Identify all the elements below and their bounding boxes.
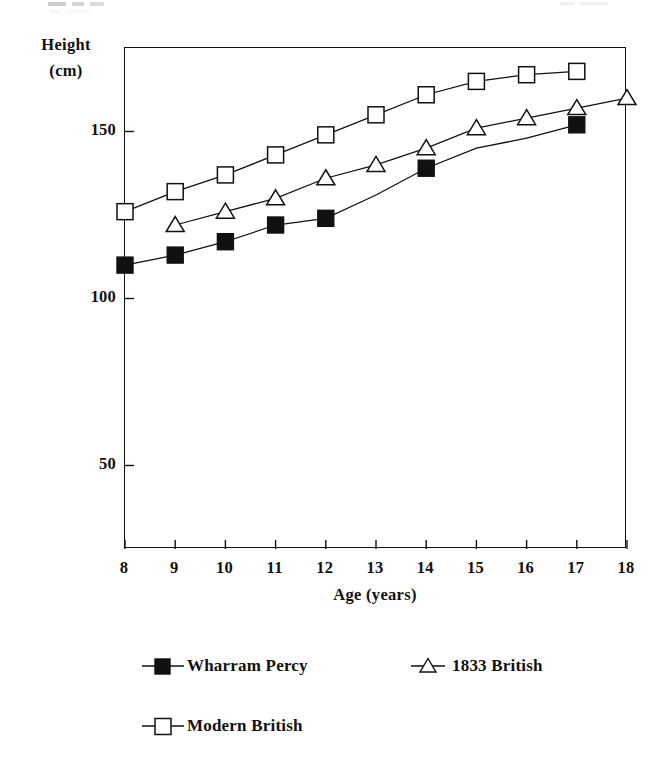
series-1833-british [166, 90, 636, 232]
data-point-modern-british-age-13 [368, 107, 384, 123]
data-point-wharram-percy-age-12 [318, 210, 334, 226]
data-point-wharram-percy-age-17 [569, 117, 585, 133]
x-tick-label-14: 14 [405, 558, 445, 578]
data-point-modern-british-age-10 [217, 167, 233, 183]
legend-marker-filled-square [140, 655, 186, 677]
data-point-wharram-percy-age-10 [217, 234, 233, 250]
data-point-modern-british-age-16 [519, 67, 535, 83]
x-tick-label-16: 16 [506, 558, 546, 578]
series-line [175, 98, 627, 225]
data-point-modern-british-age-12 [318, 127, 334, 143]
x-tick-label-9: 9 [154, 558, 194, 578]
x-tick-label-15: 15 [455, 558, 495, 578]
y-axis-title-main: Height [41, 35, 90, 54]
y-tick-label-100: 100 [60, 287, 116, 307]
x-tick-label-12: 12 [305, 558, 345, 578]
data-point-1833-british-age-18 [618, 90, 636, 105]
data-point-wharram-percy-age-9 [167, 247, 183, 263]
data-point-wharram-percy-age-8 [117, 257, 133, 273]
y-tick-label-150: 150 [60, 120, 116, 140]
data-point-modern-british-age-17 [569, 63, 585, 79]
legend-label-wharram-percy: Wharram Percy [186, 656, 308, 676]
figure-chart-height-vs-age: Height (cm) 50100150 8910111213141516171… [0, 0, 669, 765]
axis-ticks [125, 132, 627, 550]
data-point-1833-british-age-12 [317, 170, 335, 185]
series-wharram-percy [117, 117, 585, 273]
legend-marker-open-square [140, 715, 186, 737]
data-point-1833-british-age-13 [367, 156, 385, 171]
scan-artifact-top-left-2 [50, 10, 102, 13]
plot-area [124, 47, 626, 548]
data-series-layer [117, 63, 636, 273]
legend-item-modern-british: Modern British [140, 715, 303, 737]
legend-item-wharram-percy: Wharram Percy [140, 655, 308, 677]
series-modern-british [117, 63, 585, 219]
chart-legend: Wharram Percy 1833 British Modern Britis… [0, 655, 669, 755]
data-point-modern-british-age-14 [418, 87, 434, 103]
x-tick-label-10: 10 [204, 558, 244, 578]
y-axis-title: Height (cm) [18, 32, 114, 84]
series-line [125, 125, 577, 265]
data-point-modern-british-age-15 [468, 73, 484, 89]
x-tick-label-11: 11 [255, 558, 295, 578]
legend-item-1833-british: 1833 British [405, 655, 543, 677]
x-tick-label-17: 17 [556, 558, 596, 578]
data-point-wharram-percy-age-14 [418, 160, 434, 176]
data-point-1833-british-age-14 [417, 140, 435, 155]
data-point-modern-british-age-9 [167, 184, 183, 200]
legend-marker-open-triangle [405, 655, 451, 677]
data-point-modern-british-age-8 [117, 204, 133, 220]
data-point-wharram-percy-age-11 [268, 217, 284, 233]
scan-artifact-top-left [48, 2, 118, 6]
legend-label-1833-british: 1833 British [451, 656, 543, 676]
plot-canvas [125, 48, 627, 549]
x-tick-label-13: 13 [355, 558, 395, 578]
scan-artifact-top-right [560, 2, 616, 5]
data-point-1833-british-age-11 [267, 190, 285, 205]
data-point-1833-british-age-10 [216, 203, 234, 218]
legend-label-modern-british: Modern British [186, 716, 303, 736]
y-axis-title-unit: (cm) [18, 58, 114, 84]
data-point-modern-british-age-11 [268, 147, 284, 163]
data-point-1833-british-age-9 [166, 217, 184, 232]
x-tick-label-8: 8 [104, 558, 144, 578]
y-tick-label-50: 50 [60, 454, 116, 474]
x-tick-label-18: 18 [606, 558, 646, 578]
x-axis-title: Age (years) [124, 585, 626, 605]
